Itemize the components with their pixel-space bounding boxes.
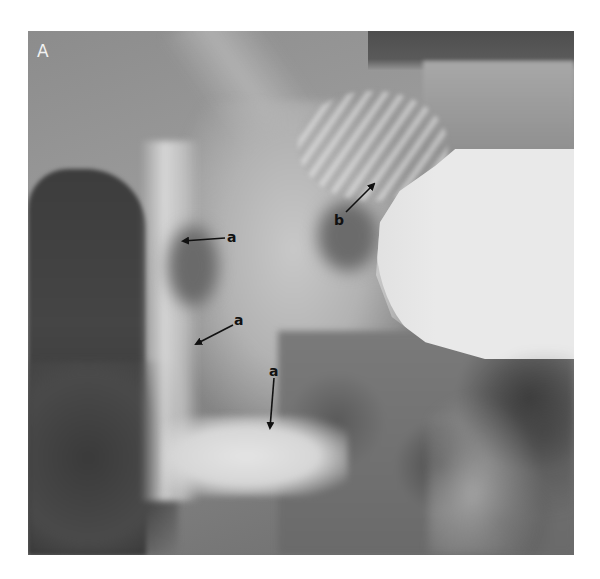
central-dark-spot: [168, 226, 218, 306]
annotation-label-a3: a: [269, 364, 278, 378]
panel-label: A: [37, 43, 49, 60]
annotation-label-a2: a: [234, 313, 243, 327]
central-dark-spot: [318, 201, 378, 271]
annotation-label-b: b: [334, 213, 344, 227]
annotation-label-a1: a: [227, 230, 236, 244]
barium-pool-lower: [163, 416, 348, 496]
right-lower-tissue: [428, 351, 574, 555]
radiograph-image: A: [28, 31, 574, 555]
